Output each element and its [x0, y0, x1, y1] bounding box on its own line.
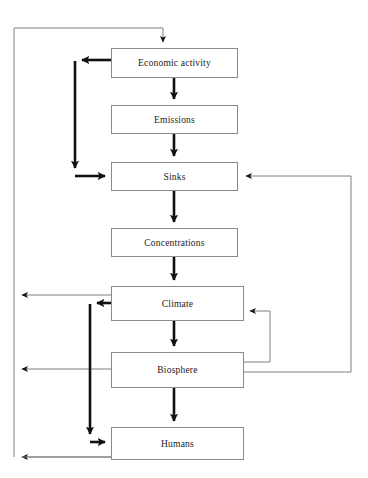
node-economic-activity[interactable]: Economic activity: [111, 48, 238, 78]
node-concentrations[interactable]: Concentrations: [111, 228, 238, 257]
node-biosphere[interactable]: Biosphere: [111, 352, 244, 388]
node-label-climate: Climate: [162, 299, 193, 309]
node-humans[interactable]: Humans: [111, 427, 244, 460]
node-label-biosphere: Biosphere: [157, 365, 197, 375]
node-climate[interactable]: Climate: [111, 286, 244, 321]
node-label-humans: Humans: [161, 439, 194, 449]
node-label-concentrations: Concentrations: [144, 238, 204, 248]
node-sinks[interactable]: Sinks: [111, 162, 238, 191]
node-label-sinks: Sinks: [163, 172, 185, 182]
edge-biosphere-to-sinks: [244, 176, 351, 372]
node-label-economic-activity: Economic activity: [138, 58, 211, 68]
flowchart-diagram: Economic activity Emissions Sinks Concen…: [0, 0, 368, 478]
edge-biosphere-to-climate: [244, 311, 270, 362]
node-label-emissions: Emissions: [154, 115, 195, 125]
node-emissions[interactable]: Emissions: [111, 105, 238, 134]
